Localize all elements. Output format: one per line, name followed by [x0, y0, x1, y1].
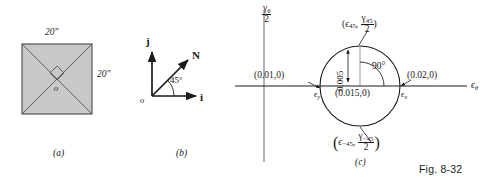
y-axis-numerator-subscript: θ	[267, 7, 270, 14]
bottom-point-epsilon-sub: −45	[342, 140, 353, 147]
square-center-label: o	[54, 85, 58, 93]
radius-value-label: 0.005	[336, 71, 345, 91]
top-point-epsilon-sub: 45	[349, 22, 356, 29]
epsilon-x-label: ϵx	[401, 90, 407, 100]
left-point-coords: (0.01,0)	[254, 71, 284, 81]
epsilon-y-label: ϵy	[314, 90, 320, 100]
panel-c-mohrs-circle: γθ 2 ϵθ (0.01,0) ϵy (0.02,0) ϵx (0.015,0…	[235, 0, 485, 175]
bottom-point-gamma-sub: −45	[363, 135, 374, 142]
arc-angle-label: 90°	[372, 62, 385, 72]
x-axis-label: ϵθ	[471, 81, 478, 92]
axis-j-label: j	[146, 36, 150, 47]
bottom-point-comma: ,	[353, 137, 355, 147]
bottom-point-label: (ϵ−45, γ−45 2)	[333, 132, 380, 153]
square-right-dimension-label: 20″	[97, 70, 110, 80]
panel-a-square-diagram: 20″ 20″ o	[0, 0, 130, 160]
y-axis-label: γθ 2	[262, 4, 271, 25]
bottom-point-close: )	[374, 134, 379, 151]
panel-b-origin-label: o	[140, 96, 144, 105]
y-axis-denominator: 2	[262, 15, 271, 25]
top-point-close: )	[374, 19, 377, 29]
axis-i-label: i	[200, 92, 203, 103]
top-point-label: (ϵ45, γ45 2)	[342, 14, 377, 35]
x-axis-subscript: θ	[475, 84, 478, 91]
top-point-denominator: 2	[361, 25, 374, 35]
figure-8-32: 20″ 20″ o (a) j i N 45° o (b)	[0, 0, 485, 183]
top-point-gamma-sub: 45	[366, 17, 373, 24]
right-point-coords: (0.02,0)	[407, 71, 437, 81]
vector-n-label: N	[192, 50, 200, 61]
panel-b-vector-diagram: j i N 45° o	[130, 0, 235, 150]
panel-c-tag: (c)	[355, 157, 366, 167]
panel-b-tag: (b)	[176, 148, 187, 158]
bottom-point-denominator: 2	[358, 143, 375, 153]
angle-45-label: 45°	[170, 76, 183, 85]
leader-epsilon-x	[401, 80, 411, 86]
panel-a-drawing	[0, 0, 130, 160]
square-top-dimension-label: 20″	[45, 28, 58, 38]
top-point-comma: ,	[356, 19, 358, 29]
figure-caption: Fig. 8-32	[419, 163, 462, 175]
panel-a-tag: (a)	[53, 148, 64, 158]
leader-epsilon-y	[308, 82, 320, 88]
